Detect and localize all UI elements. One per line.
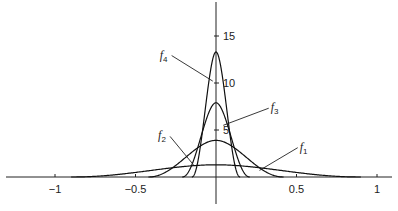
x-tick-label: −1 bbox=[49, 183, 62, 195]
series-label-sub: 4 bbox=[163, 55, 168, 64]
x-tick-label: 1 bbox=[374, 183, 380, 195]
series-label-sub: 1 bbox=[303, 147, 308, 156]
leader-line-f3 bbox=[223, 108, 268, 125]
series-label-f4: f4 bbox=[160, 48, 168, 64]
series-label-sub: 2 bbox=[161, 135, 166, 144]
x-tick-label: 0.5 bbox=[289, 183, 304, 195]
y-tick-label: 15 bbox=[223, 30, 235, 42]
x-tick-label: −0.5 bbox=[125, 183, 147, 195]
chart: −1−0.50.5151015 f1f2f3f4 bbox=[0, 0, 398, 211]
series-label-f2: f2 bbox=[158, 128, 166, 144]
series-label-sub: 3 bbox=[274, 107, 279, 116]
leader-line-f1 bbox=[259, 148, 297, 171]
series-label-f1: f1 bbox=[300, 140, 308, 156]
series-label-f3: f3 bbox=[271, 100, 279, 116]
y-tick-label: 10 bbox=[223, 77, 235, 89]
leader-line-f4 bbox=[172, 56, 213, 82]
